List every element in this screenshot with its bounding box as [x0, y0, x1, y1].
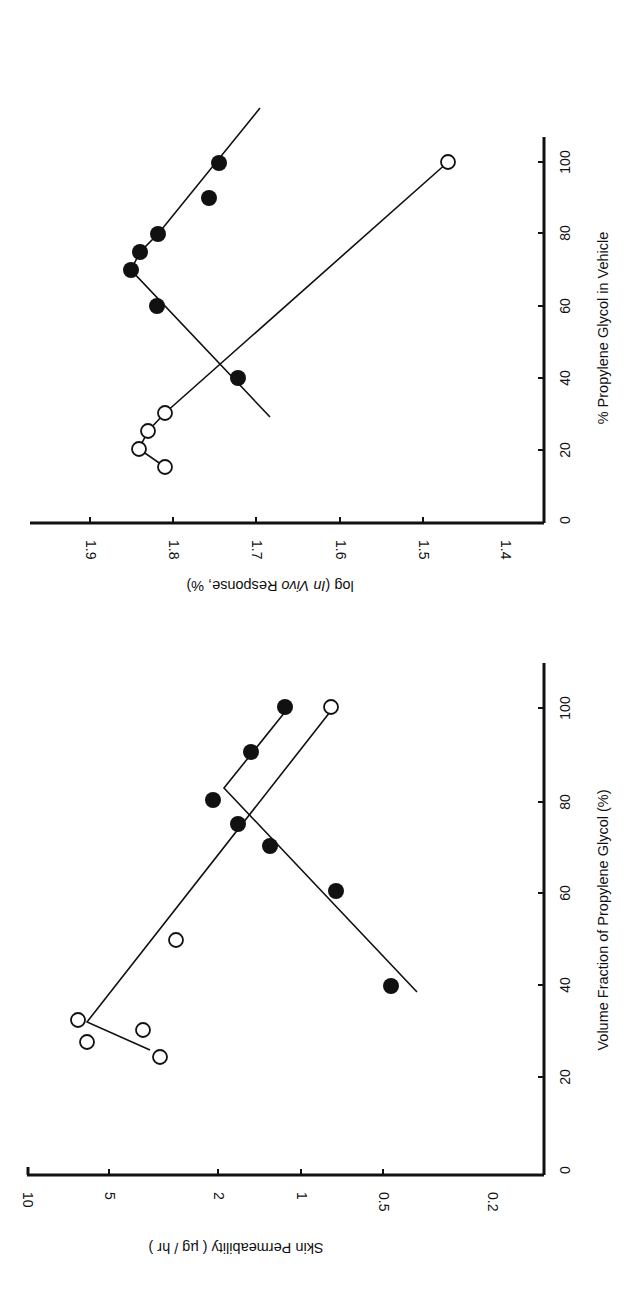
tick-label: 60 [557, 298, 573, 314]
tick-label: 10 [20, 1192, 36, 1208]
tick-label: 80 [557, 794, 573, 810]
data-point-open [169, 933, 183, 947]
tick-label: 100 [557, 150, 573, 174]
tick-label: 40 [557, 977, 573, 993]
data-point-open [136, 1023, 150, 1037]
top-open-fit-line [139, 162, 448, 467]
data-point-filled [132, 244, 148, 260]
data-point-filled [262, 838, 278, 854]
bottom-open-fit-line [87, 712, 330, 1050]
tick-label: 1.7 [249, 540, 265, 560]
tick-label: 0 [557, 516, 573, 524]
data-point-open [441, 155, 455, 169]
data-point-filled [150, 226, 166, 242]
data-point-filled [230, 816, 246, 832]
top-chart: 1.9 1.8 1.7 1.6 1.5 1.4 0 20 40 60 80 10… [30, 108, 611, 594]
data-point-open [158, 406, 172, 420]
bottom-x-tick-labels: 0 20 40 60 80 100 [557, 696, 573, 1174]
data-point-open [324, 700, 338, 714]
top-open-markers [132, 155, 455, 474]
data-point-open [71, 1013, 85, 1027]
bottom-y-axis-title: Skin Permeability ( µg / hr ) [148, 1240, 323, 1256]
data-point-filled [123, 262, 139, 278]
top-y-tick-labels: 1.9 1.8 1.7 1.6 1.5 1.4 [83, 540, 514, 560]
data-point-open [153, 1050, 167, 1064]
bottom-open-markers [71, 700, 338, 1064]
data-point-filled [277, 699, 293, 715]
tick-label: 2 [211, 1192, 227, 1200]
top-filled-markers [123, 155, 246, 386]
data-point-filled [149, 298, 165, 314]
tick-label: 60 [557, 885, 573, 901]
data-point-open [158, 460, 172, 474]
data-point-open [141, 424, 155, 438]
tick-label: 1.9 [83, 540, 99, 560]
tick-label: 1 [294, 1192, 310, 1200]
tick-label: 40 [557, 370, 573, 386]
data-point-open [132, 442, 146, 456]
bottom-x-axis-title: Volume Fraction of Propylene Glycol (%) [595, 789, 611, 1050]
top-x-tick-labels: 0 20 40 60 80 100 [557, 150, 573, 524]
tick-label: 5 [102, 1192, 118, 1200]
data-point-filled [328, 883, 344, 899]
data-point-filled [243, 744, 259, 760]
tick-label: 1.5 [416, 540, 432, 560]
tick-label: 0.5 [376, 1192, 392, 1212]
tick-label: 80 [557, 225, 573, 241]
tick-label: 20 [557, 1069, 573, 1085]
data-point-filled [383, 978, 399, 994]
bottom-chart: 10 5 2 1 0.5 0.2 0 20 40 60 80 100 Volum… [20, 663, 611, 1256]
bottom-y-tick-labels: 10 5 2 1 0.5 0.2 [20, 1192, 501, 1212]
tick-label: 1.6 [333, 540, 349, 560]
tick-label: 0.2 [485, 1192, 501, 1212]
data-point-open [80, 1035, 94, 1049]
data-point-filled [230, 370, 246, 386]
tick-label: 20 [557, 442, 573, 458]
data-point-filled [201, 190, 217, 206]
tick-label: 1.8 [166, 540, 182, 560]
bottom-filled-markers [205, 699, 399, 994]
tick-label: 100 [557, 696, 573, 720]
top-filled-fit-line [131, 108, 270, 417]
tick-label: 0 [557, 1166, 573, 1174]
figure-canvas: 1.9 1.8 1.7 1.6 1.5 1.4 0 20 40 60 80 10… [0, 0, 641, 1312]
data-point-filled [205, 792, 221, 808]
top-x-axis-title: % Propylene Glycol in Vehicle [595, 232, 611, 425]
data-point-filled [211, 155, 227, 171]
tick-label: 1.4 [498, 540, 514, 560]
top-y-axis-title: log (In Vivo Response, %) [186, 578, 353, 594]
